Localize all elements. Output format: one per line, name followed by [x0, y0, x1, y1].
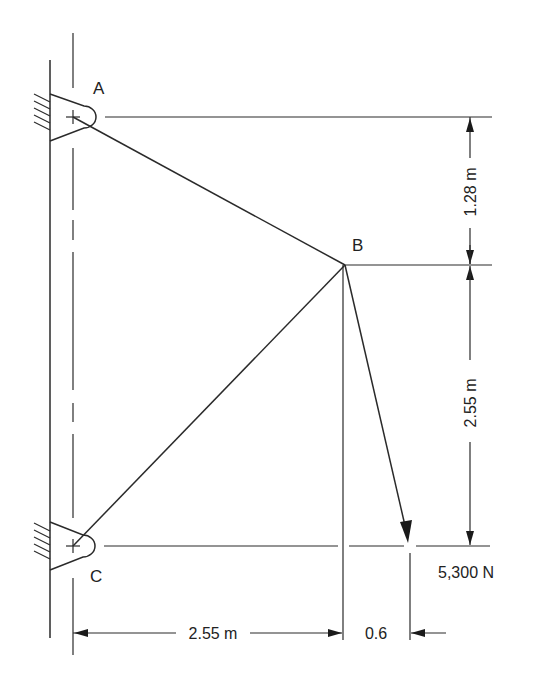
- member-bc: [73, 265, 345, 546]
- support-c: C: [34, 522, 102, 586]
- dimension-horizontal-load: 0.6: [365, 625, 446, 642]
- dimension-vertical-bc: 2.55 m: [462, 266, 479, 545]
- dimension-label-2-55-vertical: 2.55 m: [462, 379, 479, 428]
- label-b: B: [352, 236, 363, 255]
- load-value-label: 5,300 N: [438, 564, 494, 581]
- dimension-label-2-55-horizontal: 2.55 m: [189, 625, 238, 642]
- label-c: C: [90, 567, 102, 586]
- wall-hatch-a-icon: [34, 94, 50, 130]
- label-a: A: [93, 79, 105, 98]
- wall-hatch-c-icon: [34, 523, 50, 559]
- dimension-vertical-ab: 1.28 m: [462, 117, 479, 264]
- dimension-label-0-6: 0.6: [365, 625, 387, 642]
- bracket-diagram: A C B 5,300 N: [0, 0, 536, 694]
- dimension-horizontal-cb: 2.55 m: [73, 625, 342, 642]
- dimension-label-1-28: 1.28 m: [462, 168, 479, 217]
- member-ab: [73, 117, 345, 265]
- load-arrow-icon: [345, 265, 412, 543]
- support-a: A: [34, 79, 105, 141]
